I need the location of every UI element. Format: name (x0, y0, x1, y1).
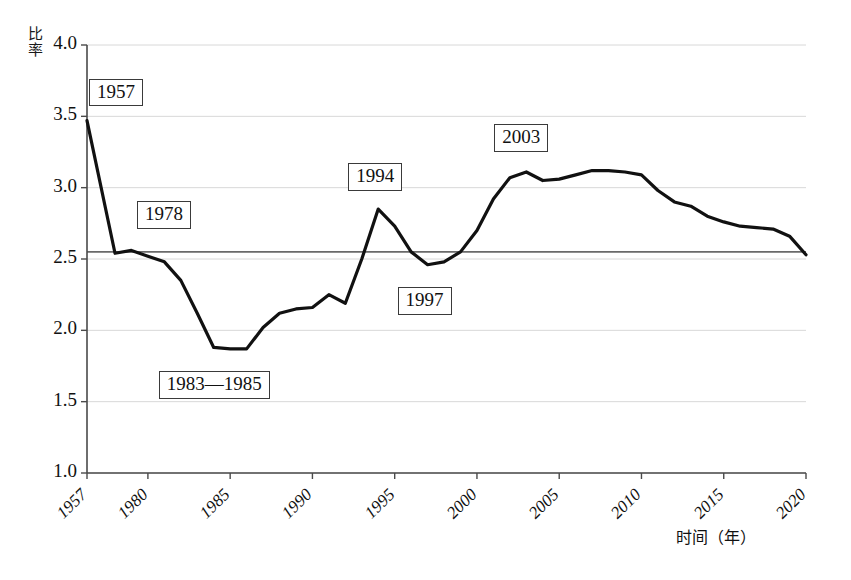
annotation-label: 1957 (89, 79, 143, 107)
x-axis-title: 时间（年） (676, 524, 756, 548)
annotation-label: 2003 (494, 124, 548, 152)
annotation-label: 1978 (137, 201, 191, 229)
line-chart: 比率 1.01.52.02.53.03.54.0 195719801985199… (0, 0, 851, 580)
data-line-比率 (87, 121, 806, 349)
annotation-label: 1997 (398, 287, 452, 315)
annotation-label: 1983—1985 (159, 371, 270, 399)
annotation-label: 1994 (348, 163, 402, 191)
